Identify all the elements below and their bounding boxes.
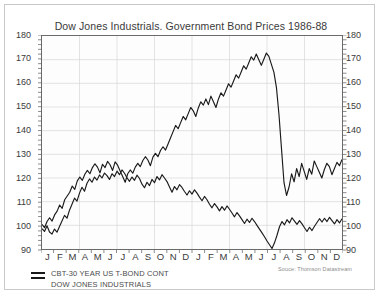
series-line <box>42 53 342 228</box>
y-tick-label-right: 110 <box>346 198 372 207</box>
y-tick-label-right: 100 <box>346 222 372 231</box>
y-tick-label-left: 120 <box>5 174 31 183</box>
legend-labels: CBT-30 YEAR US T-BOND CONT DOW JONES IND… <box>51 268 169 291</box>
y-tick-label-left: 110 <box>5 198 31 207</box>
y-tick-label-right: 90 <box>346 246 372 255</box>
y-tick-label-left: 170 <box>5 54 31 63</box>
y-tick-label-left: 180 <box>5 31 31 40</box>
y-tick-label-right: 120 <box>346 174 372 183</box>
y-axis-ticks <box>343 35 348 252</box>
chart-title: Dow Jones Industrials. Government Bond P… <box>41 20 341 32</box>
y-tick-label-right: 160 <box>346 78 372 87</box>
x-axis: JFMAMJJASONDJFMAMJJASOND <box>41 252 343 266</box>
series-line <box>42 170 342 249</box>
legend-item-bond: CBT-30 YEAR US T-BOND CONT <box>51 268 169 279</box>
plot-area <box>41 35 343 250</box>
y-axis-ticks <box>37 35 42 252</box>
legend-line-swatch <box>31 268 45 282</box>
chart-frame: Dow Jones Industrials. Government Bond P… <box>4 4 375 290</box>
y-tick-label-right: 170 <box>346 54 372 63</box>
y-tick-label-left: 130 <box>5 150 31 159</box>
y-tick-label-left: 90 <box>5 246 31 255</box>
y-tick-label-left: 160 <box>5 78 31 87</box>
y-tick-label-right: 180 <box>346 31 372 40</box>
series-layer <box>42 36 342 249</box>
y-tick-label-left: 100 <box>5 222 31 231</box>
chart-legend: CBT-30 YEAR US T-BOND CONT DOW JONES IND… <box>31 268 169 291</box>
y-tick-label-left: 150 <box>5 102 31 111</box>
y-tick-label-right: 140 <box>346 126 372 135</box>
y-tick-label-right: 130 <box>346 150 372 159</box>
legend-item-djia: DOW JONES INDUSTRIALS <box>51 279 169 290</box>
source-note: Souce: Thomson Datastream <box>278 266 352 272</box>
y-tick-label-right: 150 <box>346 102 372 111</box>
x-axis-ticks <box>41 250 343 254</box>
y-tick-label-left: 140 <box>5 126 31 135</box>
